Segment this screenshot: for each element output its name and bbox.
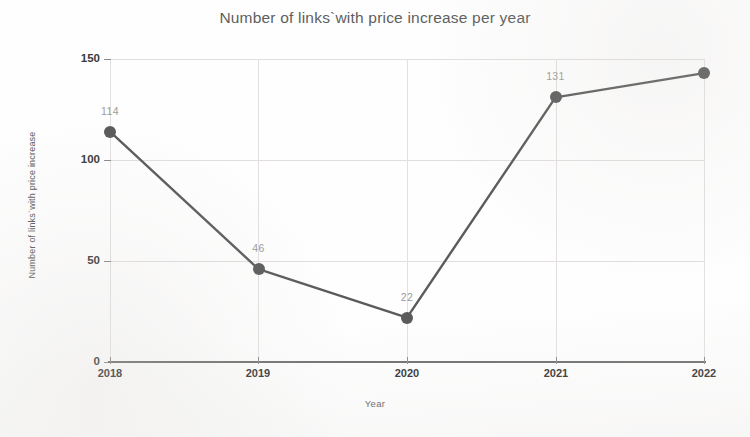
y-tick-mark-100 (104, 160, 111, 161)
gridline-x-2019 (258, 59, 259, 362)
x-axis-title: Year (0, 398, 750, 409)
data-point-2020[interactable] (401, 312, 413, 324)
x-tick-mark-2020 (407, 357, 408, 364)
y-tick-mark-50 (104, 261, 111, 262)
x-tick-mark-2021 (556, 357, 557, 364)
y-tick-label-100: 100 (54, 153, 100, 165)
y-tick-label-0: 0 (54, 355, 100, 367)
data-label-2019: 46 (229, 242, 289, 254)
x-tick-mark-2022 (704, 357, 705, 364)
y-axis-title: Number of links`with price increase (27, 85, 37, 325)
x-tick-label-2022: 2022 (674, 367, 734, 379)
data-point-2022[interactable] (698, 67, 710, 79)
chart-page: Number of links`with price increase per … (0, 0, 750, 437)
data-label-2018: 114 (80, 105, 140, 117)
x-tick-label-2020: 2020 (377, 367, 437, 379)
x-tick-label-2019: 2019 (228, 367, 288, 379)
x-tick-label-2018: 2018 (80, 367, 140, 379)
data-point-2019[interactable] (253, 263, 265, 275)
y-tick-label-50: 50 (54, 254, 100, 266)
y-tick-label-150: 150 (54, 52, 100, 64)
data-label-2021: 131 (526, 70, 586, 82)
data-point-2021[interactable] (550, 91, 562, 103)
x-tick-label-2021: 2021 (526, 367, 586, 379)
x-tick-mark-2019 (258, 357, 259, 364)
gridline-x-2022 (704, 59, 705, 362)
x-tick-mark-2018 (110, 357, 111, 364)
chart-title: Number of links`with price increase per … (0, 9, 750, 27)
data-point-2018[interactable] (104, 126, 116, 138)
gridline-x-2021 (556, 59, 557, 362)
data-label-2020: 22 (377, 291, 437, 303)
y-tick-mark-150 (104, 59, 111, 60)
